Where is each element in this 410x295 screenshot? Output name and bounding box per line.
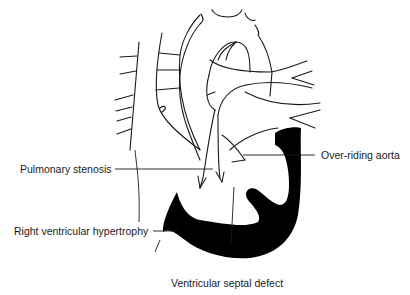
vena-cava-vessel bbox=[115, 42, 139, 150]
ventricle-wall bbox=[163, 127, 301, 258]
ventricle-edge-line bbox=[155, 240, 160, 252]
pulmonary-arteries bbox=[210, 60, 320, 128]
label-pulmonary-stenosis: Pulmonary stenosis bbox=[20, 164, 112, 175]
vessel-extension bbox=[135, 150, 139, 222]
outflow-tracts bbox=[198, 110, 278, 188]
heart-diagram bbox=[0, 0, 410, 295]
label-ventricular-septal-defect: Ventricular septal defect bbox=[171, 278, 283, 289]
label-right-ventricular-hypertrophy: Right ventricular hypertrophy bbox=[14, 226, 148, 237]
ascending-vessel bbox=[156, 15, 200, 150]
label-over-riding-aorta: Over-riding aorta bbox=[321, 150, 400, 161]
